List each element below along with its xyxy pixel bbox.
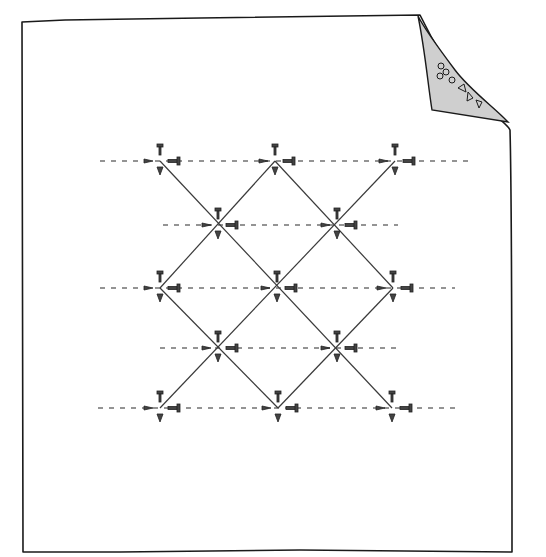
- curled-corner: [418, 16, 508, 122]
- pin-cluster-icon: [259, 144, 295, 175]
- pin-cluster-icon: [377, 271, 413, 302]
- lattice-illustration: [0, 0, 546, 557]
- pin-cluster-icon: [144, 144, 180, 175]
- horizontal-guide-threads: [98, 161, 470, 408]
- diagonal-threads: [160, 161, 395, 408]
- pin-cluster-icon: [376, 391, 412, 422]
- pin-cluster-icon: [379, 144, 415, 175]
- pin-cluster-icon: [321, 208, 357, 239]
- pin-cluster-icon: [261, 271, 297, 302]
- pin-cluster-icon: [202, 208, 238, 239]
